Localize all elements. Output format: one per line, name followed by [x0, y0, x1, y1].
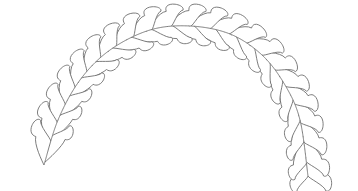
feather-arch-drawing: [0, 0, 358, 191]
feather-arch-illustration: [0, 0, 358, 191]
